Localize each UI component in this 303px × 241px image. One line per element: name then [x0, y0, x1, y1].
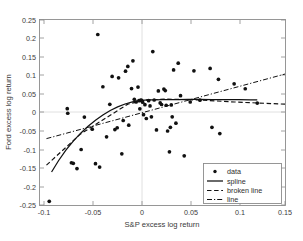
x-tick-label: -0.1 — [38, 208, 50, 217]
data-point — [208, 67, 212, 71]
data-point — [142, 113, 146, 117]
data-point — [243, 87, 247, 91]
data-point — [176, 61, 180, 65]
x-tick-label: 0 — [140, 208, 144, 217]
data-point — [47, 200, 51, 204]
y-tick-label: -0.1 — [24, 146, 36, 155]
chart-figure: 0.25 0.2 0.15 0.1 0.05 0 -0.05 -0.1 -0.1… — [0, 0, 303, 241]
y-tick-label: -0.25 — [20, 201, 36, 210]
y-tick-label: 0.25 — [22, 16, 36, 25]
curve-spline — [52, 99, 258, 172]
data-point — [151, 50, 155, 54]
data-point — [169, 103, 173, 107]
data-point — [148, 104, 152, 108]
data-point — [120, 152, 124, 156]
data-point — [71, 161, 75, 165]
data-point — [138, 107, 142, 111]
data-point — [66, 111, 70, 115]
data-point — [101, 85, 105, 89]
data-point — [124, 69, 128, 73]
data-point — [168, 150, 172, 154]
data-point — [131, 59, 135, 63]
data-point — [110, 75, 114, 79]
legend[interactable]: data spline broken line line — [204, 164, 282, 205]
data-point — [136, 85, 140, 89]
data-point — [75, 167, 79, 171]
data-point — [164, 103, 168, 107]
data-point — [105, 135, 109, 139]
y-tick-label: -0.15 — [20, 164, 36, 173]
data-point — [188, 100, 192, 104]
data-point — [94, 162, 98, 166]
data-point — [79, 148, 83, 152]
data-point — [143, 103, 147, 107]
x-axis-title: S&P excess log return — [125, 220, 200, 229]
data-point — [163, 89, 167, 93]
x-tick-label: 0.05 — [184, 208, 198, 217]
x-tick-label: -0.05 — [85, 208, 101, 217]
data-point — [83, 115, 87, 119]
scatter-plot-svg: 0.25 0.2 0.15 0.1 0.05 0 -0.05 -0.1 -0.1… — [0, 0, 303, 241]
data-point — [65, 107, 69, 111]
x-tick-label: 0.15 — [278, 208, 292, 217]
data-point — [155, 128, 159, 132]
data-point — [166, 129, 170, 133]
y-axis-tick-labels: 0.25 0.2 0.15 0.1 0.05 0 -0.05 -0.1 -0.1… — [20, 16, 36, 210]
data-point — [144, 117, 148, 121]
data-point — [160, 103, 164, 107]
data-point — [156, 89, 160, 93]
data-point — [147, 99, 151, 103]
data-point — [169, 126, 173, 130]
legend-label: line — [227, 195, 238, 204]
data-point — [172, 68, 176, 72]
data-point — [179, 94, 183, 98]
data-point — [108, 102, 112, 106]
data-point — [150, 115, 154, 119]
y-tick-label: -0.2 — [24, 183, 36, 192]
y-tick-label: 0.15 — [22, 53, 36, 62]
data-point — [198, 98, 202, 102]
y-tick-label: 0.05 — [22, 90, 36, 99]
y-tick-label: 0.2 — [26, 34, 36, 43]
fitted-curves-layer — [46, 74, 285, 172]
data-point — [218, 132, 222, 136]
data-point — [170, 115, 174, 119]
legend-label: spline — [227, 177, 246, 186]
data-point — [117, 76, 121, 80]
legend-label: data — [227, 167, 241, 176]
data-point — [192, 69, 196, 73]
data-point — [90, 127, 94, 131]
data-point — [152, 98, 156, 102]
y-tick-label: -0.05 — [20, 127, 36, 136]
data-point — [255, 101, 259, 105]
x-axis-tick-labels: -0.1 -0.05 0 0.05 0.1 0.15 — [38, 208, 292, 217]
y-tick-label: 0.1 — [26, 71, 36, 80]
data-point — [182, 154, 186, 158]
legend-label: broken line — [227, 186, 262, 195]
data-point — [115, 126, 119, 130]
y-tick-label: 0 — [32, 108, 36, 117]
data-point — [96, 33, 100, 37]
y-axis-title: Ford excess log return — [4, 74, 13, 150]
data-point — [126, 65, 130, 69]
data-point — [232, 82, 236, 86]
data-point — [174, 121, 178, 125]
data-point — [121, 119, 125, 123]
data-point — [210, 126, 214, 130]
x-tick-label: 0.1 — [235, 208, 245, 217]
data-point — [127, 123, 131, 127]
data-point — [130, 87, 134, 91]
legend-marker-icon — [213, 170, 216, 173]
data-point — [98, 165, 102, 169]
data-point — [217, 77, 221, 81]
